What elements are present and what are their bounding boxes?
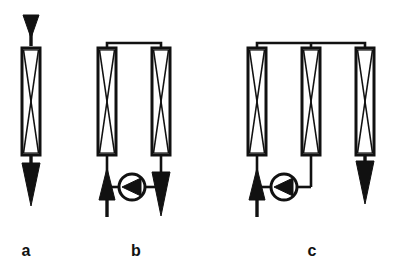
- column-b2: [152, 48, 170, 155]
- inlet-arrow-up-b: [99, 168, 115, 217]
- panel-label-b: b: [124, 243, 148, 259]
- pump-c1: [271, 174, 297, 200]
- pump-b1: [119, 174, 145, 200]
- panel-a: [22, 15, 40, 206]
- panel-label-c: c: [300, 243, 324, 259]
- column-c1: [248, 48, 266, 155]
- inlet-arrow-down-a: [23, 15, 39, 46]
- outlet-arrow-down-b: [152, 172, 170, 216]
- panel-b: [98, 43, 170, 217]
- figure-container: a b c: [0, 0, 395, 273]
- inlet-arrow-up-c: [249, 168, 265, 217]
- outlet-arrow-down-a: [22, 155, 40, 206]
- outlet-arrow-down-c: [356, 155, 374, 204]
- panel-label-a: a: [14, 243, 38, 259]
- column-a1: [22, 48, 40, 155]
- column-c3: [356, 48, 374, 155]
- column-c2: [302, 48, 320, 155]
- panel-c: [248, 43, 374, 217]
- flow-diagram: [0, 0, 395, 273]
- column-b1: [98, 48, 116, 155]
